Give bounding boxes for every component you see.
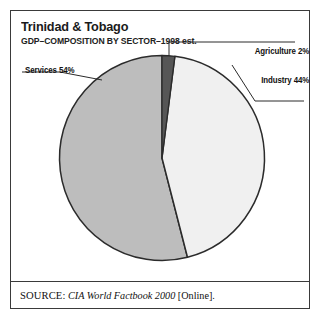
slice-label-industry: Industry 44%: [261, 75, 309, 85]
footer-divider: [11, 281, 309, 282]
slice-label-agriculture: Agriculture 2%: [254, 46, 309, 56]
source-note: SOURCE: CIA World Factbook 2000 [Online]…: [20, 290, 215, 301]
slice-label-services: Services 54%: [25, 65, 74, 75]
figure-root: Trinidad & Tobago GDP–COMPOSITION BY SEC…: [0, 0, 323, 324]
source-title: CIA World Factbook 2000: [68, 290, 175, 301]
source-suffix: [Online].: [178, 290, 215, 301]
source-kicker: SOURCE:: [20, 290, 65, 301]
